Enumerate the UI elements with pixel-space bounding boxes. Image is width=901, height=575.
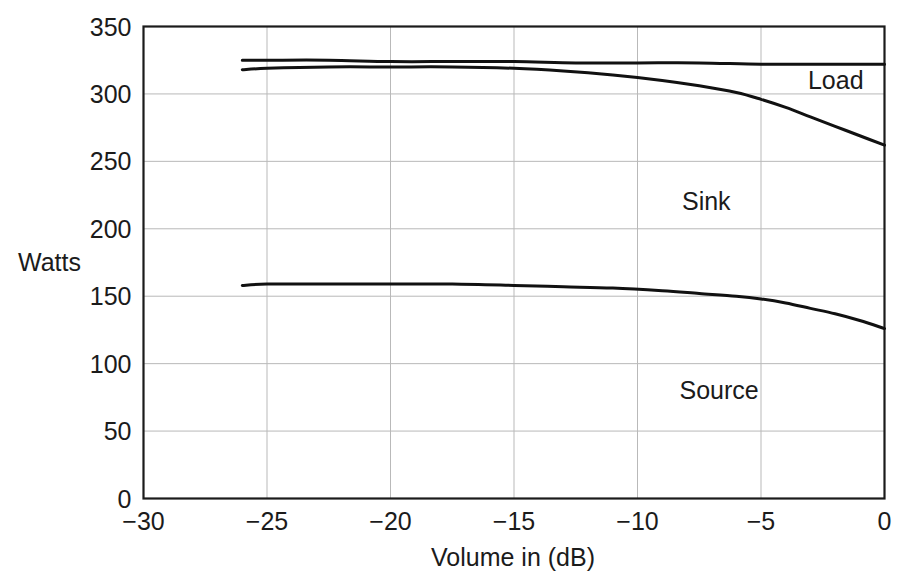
y-tick-label: 100 <box>90 350 132 378</box>
y-tick-label: 300 <box>90 80 132 108</box>
x-tick-label: −15 <box>493 507 535 535</box>
chart-canvas: −30−25−20−15−10−50 050100150200250300350… <box>0 0 901 575</box>
y-axis-tick-labels: 050100150200250300350 <box>90 13 132 513</box>
series-line-load <box>242 60 884 64</box>
x-tick-label: −5 <box>747 507 776 535</box>
x-tick-label: −10 <box>616 507 658 535</box>
annotation-sink: Sink <box>682 187 731 215</box>
grid-lines <box>144 27 885 499</box>
y-tick-label: 0 <box>118 485 132 513</box>
data-series-layer <box>242 60 884 328</box>
y-tick-label: 250 <box>90 147 132 175</box>
x-tick-label: −20 <box>369 507 411 535</box>
y-axis-title: Watts <box>18 248 81 276</box>
x-axis-title: Volume in (dB) <box>431 543 595 571</box>
x-tick-label: −25 <box>246 507 288 535</box>
annotation-source: Source <box>679 376 758 404</box>
x-tick-label: 0 <box>878 507 892 535</box>
y-tick-label: 150 <box>90 282 132 310</box>
y-tick-label: 200 <box>90 215 132 243</box>
annotation-load: Load <box>808 66 864 94</box>
series-line-sink-boundary <box>242 67 884 145</box>
series-annotations: LoadSinkSource <box>679 66 863 404</box>
chart-figure: −30−25−20−15−10−50 050100150200250300350… <box>0 0 901 575</box>
x-axis-tick-labels: −30−25−20−15−10−50 <box>122 507 891 535</box>
y-tick-label: 50 <box>104 417 132 445</box>
y-tick-label: 350 <box>90 13 132 41</box>
series-line-source <box>242 284 884 329</box>
